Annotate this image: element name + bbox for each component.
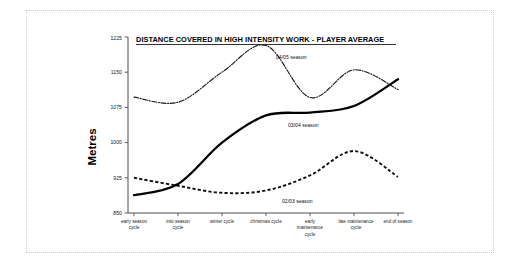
x-category-label-0: early seasoncycle xyxy=(121,219,147,230)
series-line-03-04 xyxy=(134,79,398,195)
x-category-label-1: into seasoncycle xyxy=(166,219,190,230)
y-tick-label-1: 925 xyxy=(113,175,122,181)
series-annotation-04-05: 04/05 season xyxy=(276,54,307,60)
y-axis-title: Metres xyxy=(86,128,98,165)
y-tick-label-3: 1075 xyxy=(110,104,122,110)
series-annotation-02-03: 02/03 season xyxy=(282,198,313,204)
series-annotation-03-04: 03/04 season xyxy=(288,122,319,128)
x-category-label-6: end of season xyxy=(384,219,413,224)
y-tick-label-2: 1000 xyxy=(110,139,122,145)
series-line-04-05 xyxy=(134,45,398,103)
x-category-label-3: christmas cycle xyxy=(250,219,282,224)
x-category-label-5: late maintenancecycle xyxy=(339,219,374,230)
line-chart: DISTANCE COVERED IN HIGH INTENSITY WORK … xyxy=(0,0,520,263)
x-category-label-2: winter cycle xyxy=(210,219,234,224)
slide-canvas: DISTANCE COVERED IN HIGH INTENSITY WORK … xyxy=(0,0,520,263)
x-category-label-4: earlymaintenancecycle xyxy=(297,219,324,237)
y-tick-label-5: 1225 xyxy=(110,35,122,41)
chart-title: DISTANCE COVERED IN HIGH INTENSITY WORK … xyxy=(136,35,384,44)
y-tick-label-0: 850 xyxy=(113,210,122,216)
y-tick-label-4: 1150 xyxy=(111,69,122,75)
